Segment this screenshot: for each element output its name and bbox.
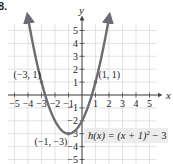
function-label: h(x) = (x + 1)2 − 3 [84, 128, 168, 143]
y-tick-label: −4 [67, 141, 78, 152]
y-tick-label: 3 [73, 51, 78, 62]
point-label: (−3, 1) [14, 69, 41, 81]
x-tick-label: −3 [36, 98, 47, 109]
x-tick-label: −4 [23, 98, 34, 109]
y-tick-label: 1 [73, 77, 78, 88]
x-tick-label: −5 [9, 98, 20, 109]
x-tick-label: 5 [147, 98, 152, 109]
y-tick-label: 5 [73, 25, 78, 36]
y-axis-label: y [78, 4, 84, 16]
x-tick-label: 3 [120, 98, 125, 109]
x-tick-label: 2 [107, 98, 112, 109]
y-tick-label: 4 [73, 38, 78, 49]
function-label-text: h(x) = (x + 1)2 − 3 [88, 129, 166, 142]
x-axis-label: x [165, 89, 171, 101]
x-tick-label: −2 [50, 98, 61, 109]
point-marker [40, 80, 44, 84]
point-label: (1, 1) [99, 69, 121, 81]
y-tick-label: −2 [67, 115, 78, 126]
y-tick-label: −1 [67, 102, 78, 113]
y-tick-label: −5 [67, 154, 78, 164]
parabola-graph: xy −5−4−3−2−11234554321−1−2−3−4−5 (−3, 1… [0, 0, 173, 164]
x-tick-label: 4 [134, 98, 139, 109]
x-tick-label: 1 [93, 98, 98, 109]
point-marker [94, 80, 98, 84]
point-label: (−1, −3) [35, 136, 68, 148]
y-tick-label: 2 [73, 64, 78, 75]
